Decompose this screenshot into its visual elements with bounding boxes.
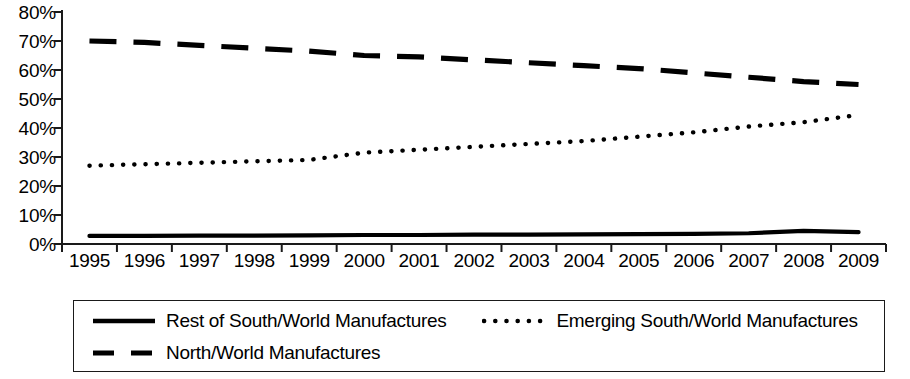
x-tick-label: 1997 — [172, 250, 227, 280]
series-line-emerging-south — [89, 115, 858, 166]
x-tick-label: 2001 — [392, 250, 447, 280]
series-line-rest-of-south — [89, 231, 858, 236]
legend-label: Rest of South/World Manufactures — [166, 310, 446, 332]
legend-entry-north: North/World Manufactures — [92, 337, 380, 369]
legend-swatch-solid-icon — [92, 312, 156, 330]
x-tick-label: 2000 — [337, 250, 392, 280]
legend-swatch-dashed-icon — [92, 344, 156, 362]
plot-area: 80% 70% 60% 50% 40% 30% 20% 10% 0% 1995 — [0, 0, 910, 290]
x-tick-label: 2006 — [666, 250, 721, 280]
x-tick-label: 2002 — [447, 250, 502, 280]
series-line-north — [89, 41, 858, 85]
x-tick-label: 2008 — [776, 250, 831, 280]
x-tick-label: 1999 — [282, 250, 337, 280]
legend-entry-rest-of-south: Rest of South/World Manufactures — [92, 305, 446, 337]
x-tick-label: 2003 — [502, 250, 557, 280]
legend-swatch-dotted-icon — [482, 312, 546, 330]
legend-label: North/World Manufactures — [166, 342, 380, 364]
x-tick-label: 2007 — [721, 250, 776, 280]
x-axis: 1995 1996 1997 1998 1999 2000 2001 2002 … — [62, 250, 886, 280]
chart-legend: Rest of South/World Manufactures Emergin… — [73, 300, 885, 372]
legend-row: Rest of South/World Manufactures Emergin… — [74, 305, 884, 337]
chart-figure: 80% 70% 60% 50% 40% 30% 20% 10% 0% 1995 — [0, 0, 910, 379]
chart-canvas — [0, 0, 910, 290]
legend-row: North/World Manufactures — [74, 337, 884, 369]
x-tick-label: 2005 — [611, 250, 666, 280]
x-tick-label: 2009 — [831, 250, 886, 280]
x-tick-label: 1998 — [227, 250, 282, 280]
x-tick-label: 1995 — [62, 250, 117, 280]
legend-entry-emerging-south: Emerging South/World Manufactures — [482, 305, 857, 337]
legend-label: Emerging South/World Manufactures — [556, 310, 857, 332]
y-axis-ticks — [54, 12, 62, 244]
x-tick-label: 2004 — [556, 250, 611, 280]
x-tick-label: 1996 — [117, 250, 172, 280]
